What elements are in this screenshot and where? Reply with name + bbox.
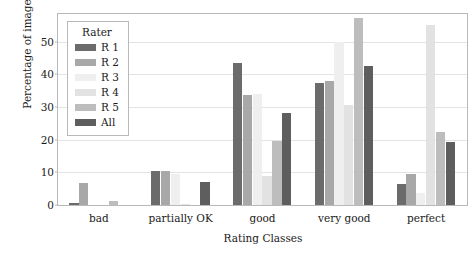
bar — [243, 95, 252, 205]
legend-swatch-icon — [75, 44, 96, 51]
plot-area: 01020304050 badpartially OKgoodvery good… — [57, 13, 468, 206]
bar — [344, 105, 353, 205]
legend-item: R 1 — [75, 40, 119, 55]
bar — [253, 94, 262, 205]
bar — [69, 203, 78, 205]
legend-swatch-icon — [75, 89, 96, 96]
x-axis-title: Rating Classes — [57, 232, 469, 244]
bar — [334, 42, 343, 205]
legend-item: R 2 — [75, 55, 119, 70]
bar — [416, 193, 425, 205]
legend-item-label: R 3 — [101, 72, 119, 83]
legend-item: R 5 — [75, 100, 119, 115]
legend-swatch-icon — [75, 59, 96, 66]
legend-item-label: R 4 — [101, 87, 119, 98]
y-axis-title: Percentage of images — [22, 0, 33, 126]
bar-chart-figure: Percentage of images 01020304050 badpart… — [0, 0, 475, 260]
bar — [446, 142, 455, 205]
legend-swatch-icon — [75, 104, 96, 111]
bar — [262, 176, 271, 205]
bar — [354, 18, 363, 205]
legend-title: Rater — [75, 26, 119, 38]
legend-item-label: R 5 — [101, 102, 119, 113]
bar — [436, 132, 445, 205]
legend-item-label: All — [101, 117, 115, 128]
y-axis-tick-label: 20 — [41, 134, 54, 146]
bar-group — [151, 14, 210, 205]
legend-entries: R 1R 2R 3R 4R 5All — [75, 40, 119, 130]
x-axis-tick-label: partially OK — [149, 212, 213, 224]
bar — [151, 171, 160, 205]
bar — [79, 183, 88, 205]
legend-item: R 4 — [75, 85, 119, 100]
bar — [181, 204, 190, 205]
x-axis-tick-label: bad — [89, 212, 109, 224]
y-axis-tick-label: 40 — [41, 68, 54, 80]
legend-swatch-icon — [75, 74, 96, 81]
bar — [406, 174, 415, 205]
bar — [426, 25, 435, 205]
legend-item-label: R 2 — [101, 57, 119, 68]
bar — [315, 83, 324, 205]
bar — [364, 66, 373, 205]
x-axis-tick-label: good — [249, 212, 275, 224]
y-axis-tick-label: 30 — [41, 101, 54, 113]
bar — [397, 184, 406, 205]
bar-group — [315, 14, 374, 205]
x-axis-tick-label: perfect — [407, 212, 445, 224]
bar — [272, 141, 281, 205]
bar — [109, 201, 118, 205]
bar — [200, 182, 209, 206]
legend: Rater R 1R 2R 3R 4R 5All — [67, 21, 129, 136]
bar — [325, 81, 334, 205]
legend-item: R 3 — [75, 70, 119, 85]
bar — [233, 63, 242, 205]
bar-group — [233, 14, 292, 205]
x-axis-tick-label: very good — [318, 212, 371, 224]
y-axis-tick-label: 50 — [41, 36, 54, 48]
legend-swatch-icon — [75, 119, 96, 126]
bar — [171, 174, 180, 205]
legend-item: All — [75, 115, 119, 130]
bar-group — [397, 14, 456, 205]
bar — [282, 113, 291, 205]
bar — [161, 171, 170, 205]
legend-item-label: R 1 — [101, 42, 119, 53]
y-axis-tick-label: 0 — [47, 199, 54, 211]
y-axis-tick-label: 10 — [41, 166, 54, 178]
